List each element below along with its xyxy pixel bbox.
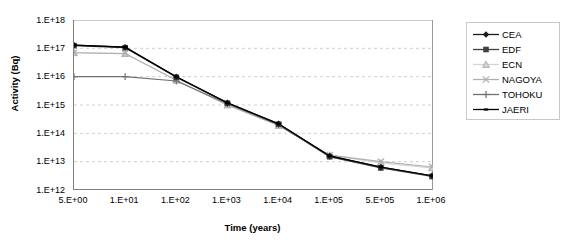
y-axis-tick-label: 1.E+17 xyxy=(36,44,65,53)
legend-item-tohoku[interactable]: TOHOKU xyxy=(467,87,559,102)
data-point-marker-dash xyxy=(328,155,332,157)
legend-key-triangle-icon xyxy=(471,57,501,72)
series-line-nagoya xyxy=(74,53,432,167)
series-line-jaeri xyxy=(74,45,432,176)
legend-label: CEA xyxy=(501,30,522,40)
legend-key-diamond-icon xyxy=(471,27,501,42)
data-point-marker-dash xyxy=(174,76,178,78)
x-axis-tick-label: 1.E+05 xyxy=(314,196,343,205)
x-axis-tick-label: 1.E+01 xyxy=(110,196,139,205)
y-axis-tick-label: 1.E+13 xyxy=(36,157,65,166)
legend-item-jaeri[interactable]: JAERI xyxy=(467,102,559,117)
x-axis-tick-label: 1.E+06 xyxy=(417,196,446,205)
data-point-marker-plus xyxy=(122,73,129,80)
series-line-edf xyxy=(74,46,432,177)
x-axis-tick-label: 5.E+05 xyxy=(365,196,394,205)
legend-label: JAERI xyxy=(501,105,529,115)
chart-legend: CEAEDFECNNAGOYATOHOKUJAERI xyxy=(466,22,560,120)
x-axis-tick-label: 1.E+04 xyxy=(263,196,292,205)
legend-item-cea[interactable]: CEA xyxy=(467,27,559,42)
data-point-marker-square xyxy=(483,47,489,53)
x-axis-tick-labels: 5.E+001.E+011.E+021.E+031.E+041.E+055.E+… xyxy=(73,196,432,210)
x-axis-title: Time (years) xyxy=(73,222,432,233)
y-axis-tick-label: 1.E+14 xyxy=(36,129,65,138)
data-point-marker-dash xyxy=(484,108,488,110)
x-axis-tick-label: 1.E+03 xyxy=(212,196,241,205)
series-line-cea xyxy=(74,45,432,176)
chart-figure: 1.E+121.E+131.E+141.E+151.E+161.E+171.E+… xyxy=(0,0,566,246)
legend-key-square-icon xyxy=(471,42,501,57)
y-axis-tick-label: 1.E+12 xyxy=(36,186,65,195)
legend-label: ECN xyxy=(501,60,522,70)
y-axis-tick-label: 1.E+16 xyxy=(36,72,65,81)
data-point-marker-plus xyxy=(483,91,490,98)
legend-item-ecn[interactable]: ECN xyxy=(467,57,559,72)
data-point-marker-dash xyxy=(74,44,76,46)
legend-item-nagoya[interactable]: NAGOYA xyxy=(467,72,559,87)
y-axis-tick-label: 1.E+15 xyxy=(36,101,65,110)
data-point-marker-dash xyxy=(276,123,280,125)
legend-label: TOHOKU xyxy=(501,90,542,100)
data-point-marker-diamond xyxy=(483,31,489,37)
y-axis-tick-label: 1.E+18 xyxy=(36,16,65,25)
legend-label: EDF xyxy=(501,45,521,55)
legend-label: NAGOYA xyxy=(501,75,542,85)
x-axis-tick-label: 5.E+00 xyxy=(59,196,88,205)
data-point-marker-dash xyxy=(379,166,383,168)
legend-key-plus-icon xyxy=(471,87,501,102)
legend-key-dash-icon xyxy=(471,102,501,117)
plot-area xyxy=(73,20,432,190)
legend-item-edf[interactable]: EDF xyxy=(467,42,559,57)
data-point-marker-dash xyxy=(430,175,433,177)
data-point-marker-dash xyxy=(123,46,127,48)
series-line-ecn xyxy=(74,53,432,168)
data-point-marker-plus xyxy=(74,73,77,80)
x-axis-tick-label: 1.E+02 xyxy=(161,196,190,205)
plot-lines xyxy=(74,20,433,190)
legend-key-cross-x-icon xyxy=(471,72,501,87)
data-point-marker-dash xyxy=(225,102,229,104)
y-axis-title: Activity (Bq) xyxy=(9,42,20,126)
